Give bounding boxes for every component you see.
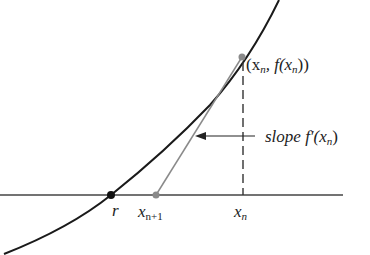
arrow-head-icon bbox=[195, 132, 206, 140]
root-point bbox=[107, 191, 115, 199]
point-fxn bbox=[239, 54, 246, 61]
point-label: (xn, f(xn)) bbox=[246, 55, 309, 75]
point-xn1 bbox=[153, 192, 160, 199]
xn-label: xn bbox=[233, 202, 248, 222]
tangent-line bbox=[156, 57, 242, 195]
slope-label: slope f′(xn) bbox=[265, 127, 338, 147]
root-label: r bbox=[112, 201, 119, 220]
diagram-svg: (xn, f(xn)) slope f′(xn) r xn+1 xn bbox=[0, 0, 370, 255]
newton-method-diagram: (xn, f(xn)) slope f′(xn) r xn+1 xn bbox=[0, 0, 370, 255]
xn1-label: xn+1 bbox=[137, 202, 163, 222]
